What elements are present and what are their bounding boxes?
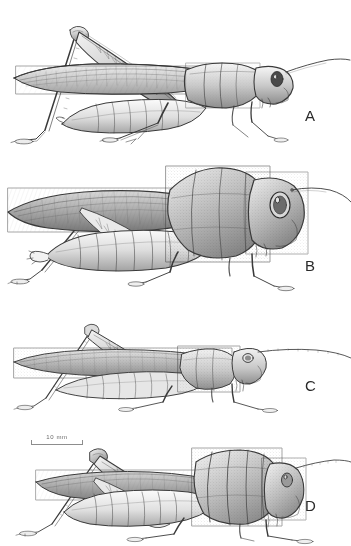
c-antenna bbox=[258, 349, 351, 358]
c-head bbox=[232, 348, 266, 391]
a-compound-eye bbox=[271, 72, 283, 87]
a-thorax bbox=[184, 63, 260, 108]
grasshopper-b-drawing bbox=[8, 166, 351, 291]
a-antenna bbox=[286, 59, 350, 74]
b-head bbox=[246, 172, 308, 257]
c-thorax bbox=[178, 346, 240, 392]
panel-label-b: B bbox=[305, 258, 316, 273]
panel-label-a: A bbox=[305, 108, 316, 123]
grasshopper-d-drawing bbox=[16, 448, 351, 544]
grasshopper-c-drawing bbox=[14, 324, 351, 412]
specimen-figure-a bbox=[0, 8, 351, 148]
panel-label-c: C bbox=[305, 378, 316, 393]
illustration-plate: A bbox=[0, 0, 351, 546]
grasshopper-a-drawing bbox=[11, 26, 350, 144]
a-abdomen bbox=[56, 99, 206, 133]
panel-label-d: D bbox=[305, 498, 316, 513]
d-head bbox=[262, 458, 306, 527]
specimen-figure-c bbox=[0, 312, 351, 430]
specimen-figure-b bbox=[0, 150, 351, 300]
specimen-figure-d bbox=[0, 440, 351, 546]
